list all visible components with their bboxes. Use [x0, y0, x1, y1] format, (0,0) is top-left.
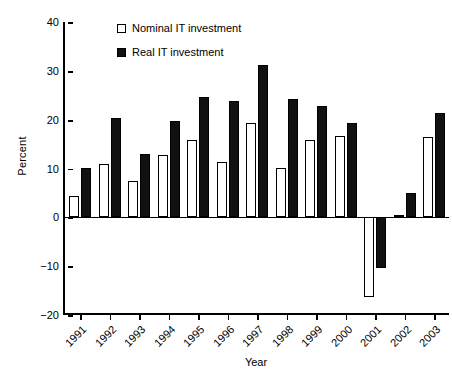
x-tick-mark	[287, 315, 289, 320]
bar-real-1991	[81, 168, 91, 218]
bar-group-1992	[95, 22, 125, 315]
bar-group-1991	[65, 22, 95, 315]
y-tick-40: 40	[35, 16, 63, 28]
x-tick-label-1994: 1994	[151, 323, 177, 349]
bar-nominal-1993	[128, 181, 138, 217]
it-investment-bar-chart: Percent Nominal IT investment Real IT in…	[0, 0, 452, 381]
x-tick-label-1991: 1991	[63, 323, 89, 349]
bar-group-1994	[154, 22, 184, 315]
y-tick-10: 10	[35, 163, 63, 175]
x-tick-slot-1995: 1995	[183, 315, 213, 323]
bar-nominal-1997	[246, 123, 256, 218]
x-tick-mark	[169, 315, 171, 320]
x-tick-mark	[110, 315, 112, 320]
y-tick-30: 30	[35, 65, 63, 77]
y-tick-label: 20	[35, 114, 59, 126]
y-axis-title: Percent	[16, 116, 28, 196]
x-axis-ticks: 1991199219931994199519961997199819992000…	[65, 315, 449, 323]
x-tick-label-1998: 1998	[269, 323, 295, 349]
y-tick-label: 40	[35, 16, 59, 28]
bar-group-1996	[213, 22, 243, 315]
x-tick-mark	[198, 315, 200, 320]
x-tick-mark	[346, 315, 348, 320]
bar-group-1995	[183, 22, 213, 315]
x-tick-slot-1992: 1992	[95, 315, 125, 323]
x-tick-label-1993: 1993	[122, 323, 148, 349]
x-tick-label-1996: 1996	[210, 323, 236, 349]
bar-real-1994	[170, 121, 180, 217]
y-tick-20: 20	[35, 114, 63, 126]
bar-nominal-1996	[217, 162, 227, 218]
x-tick-label-1995: 1995	[181, 323, 207, 349]
bar-real-1996	[229, 101, 239, 217]
y-tick-label: −20	[35, 309, 59, 321]
y-tick-label: 10	[35, 163, 59, 175]
bar-real-1999	[317, 106, 327, 217]
bar-real-2001	[376, 217, 386, 267]
x-tick-slot-1999: 1999	[301, 315, 331, 323]
bar-nominal-2003	[423, 137, 433, 217]
x-tick-slot-1997: 1997	[242, 315, 272, 323]
bar-nominal-1995	[187, 140, 197, 218]
bar-group-1998	[272, 22, 302, 315]
bar-nominal-1999	[305, 140, 315, 217]
x-tick-mark	[139, 315, 141, 320]
bar-real-1995	[199, 97, 209, 218]
bar-group-2003	[419, 22, 449, 315]
bar-nominal-2000	[335, 136, 345, 218]
x-tick-slot-1991: 1991	[65, 315, 95, 323]
x-tick-mark	[80, 315, 82, 320]
bar-real-1993	[140, 154, 150, 217]
x-tick-label-2002: 2002	[388, 323, 414, 349]
x-tick-mark	[405, 315, 407, 320]
x-tick-label-2000: 2000	[328, 323, 354, 349]
y-tick-neg20: −20	[35, 309, 63, 321]
bar-nominal-1998	[276, 168, 286, 218]
x-tick-label-1999: 1999	[299, 323, 325, 349]
x-tick-slot-2002: 2002	[390, 315, 420, 323]
y-tick-0: 0	[35, 211, 63, 223]
bar-group-2001	[360, 22, 390, 315]
x-tick-label-1997: 1997	[240, 323, 266, 349]
bar-group-2000	[331, 22, 361, 315]
y-tick-label: 0	[35, 211, 59, 223]
bar-real-1997	[258, 65, 268, 217]
x-tick-label-2003: 2003	[417, 323, 443, 349]
bar-real-1998	[288, 99, 298, 218]
bar-real-2002	[406, 193, 416, 217]
x-tick-label-2001: 2001	[358, 323, 384, 349]
plot-area: 403020100−10−20 199119921993199419951996…	[63, 22, 449, 315]
x-tick-slot-1996: 1996	[213, 315, 243, 323]
bar-nominal-2002	[394, 215, 404, 217]
bar-group-1999	[301, 22, 331, 315]
x-tick-slot-1998: 1998	[272, 315, 302, 323]
x-tick-mark	[257, 315, 259, 320]
x-tick-slot-2003: 2003	[419, 315, 449, 323]
x-tick-slot-2000: 2000	[331, 315, 361, 323]
bar-group-2002	[390, 22, 420, 315]
x-tick-mark	[316, 315, 318, 320]
bar-real-2003	[435, 113, 445, 217]
bar-groups	[65, 22, 449, 315]
x-axis-title: Year	[63, 356, 449, 368]
x-tick-mark	[434, 315, 436, 320]
bar-nominal-1992	[99, 164, 109, 218]
x-tick-slot-1993: 1993	[124, 315, 154, 323]
x-tick-label-1992: 1992	[92, 323, 118, 349]
y-tick-label: −10	[35, 260, 59, 272]
bar-nominal-1991	[69, 196, 79, 217]
bar-group-1993	[124, 22, 154, 315]
y-tick-label: 30	[35, 65, 59, 77]
y-tick-neg10: −10	[35, 260, 63, 272]
x-tick-slot-1994: 1994	[154, 315, 184, 323]
x-tick-mark	[228, 315, 230, 320]
bar-real-1992	[111, 118, 121, 218]
bar-group-1997	[242, 22, 272, 315]
bar-real-2000	[347, 123, 357, 218]
bar-nominal-1994	[158, 155, 168, 218]
x-tick-slot-2001: 2001	[360, 315, 390, 323]
x-tick-mark	[375, 315, 377, 320]
bar-nominal-2001	[364, 217, 374, 297]
